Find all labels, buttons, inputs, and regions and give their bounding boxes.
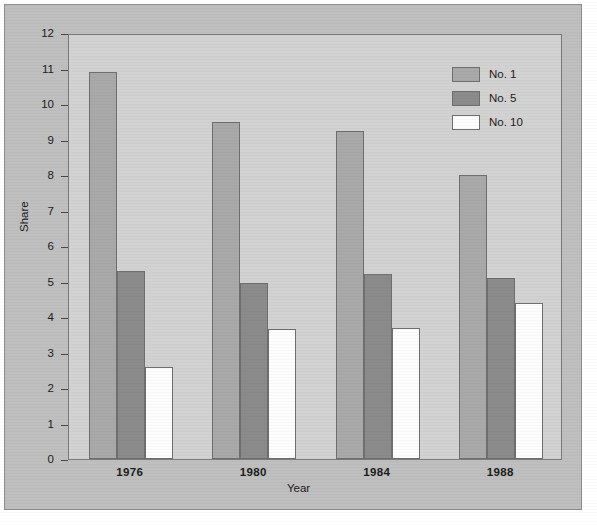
bar-1976-no10 (145, 367, 173, 459)
x-axis-tick-label: 1984 (337, 466, 417, 478)
y-axis-tick-label: 4 (14, 312, 54, 324)
y-axis-tick (61, 318, 68, 319)
y-axis-tick (61, 70, 68, 71)
y-axis-tick (61, 176, 68, 177)
legend-swatch (452, 115, 480, 130)
y-axis-tick-label: 10 (14, 99, 54, 111)
y-axis-tick (61, 141, 68, 142)
y-axis-tick (61, 460, 68, 461)
bar-1980-no10 (268, 329, 296, 459)
legend-label: No. 5 (489, 92, 517, 104)
bar-1984-no5 (364, 274, 392, 459)
x-axis-title: Year (0, 482, 597, 494)
y-axis-tick-label: 6 (14, 241, 54, 253)
bar-1984-no1 (336, 131, 364, 459)
y-axis-tick (61, 212, 68, 213)
legend-swatch (452, 91, 480, 106)
y-axis-tick-label: 0 (14, 454, 54, 466)
y-axis-tick (61, 283, 68, 284)
y-axis-tick-label: 8 (14, 170, 54, 182)
x-axis-tick-label: 1980 (213, 466, 293, 478)
bar-chart-figure: 0123456789101112 Share 1976198019841988 … (0, 0, 597, 525)
legend: No. 1No. 5No. 10 (452, 62, 552, 134)
y-axis-tick-label: 9 (14, 135, 54, 147)
legend-swatch (452, 67, 480, 82)
bar-1976-no1 (89, 72, 117, 459)
y-axis-tick-label: 2 (14, 383, 54, 395)
y-axis-tick-label: 5 (14, 277, 54, 289)
y-axis-tick-label: 3 (14, 348, 54, 360)
y-axis-title: Share (18, 201, 30, 232)
x-axis-tick-label: 1988 (460, 466, 540, 478)
legend-item: No. 1 (452, 62, 552, 86)
bar-1988-no1 (459, 175, 487, 459)
y-axis-tick (61, 354, 68, 355)
bar-1988-no5 (487, 278, 515, 459)
y-axis-tick (61, 247, 68, 248)
legend-label: No. 1 (489, 68, 517, 80)
y-axis-tick (61, 105, 68, 106)
y-axis-tick-label: 12 (14, 28, 54, 40)
y-axis-tick (61, 425, 68, 426)
x-axis-tick-label: 1976 (90, 466, 170, 478)
y-axis-tick-label: 1 (14, 419, 54, 431)
legend-item: No. 10 (452, 110, 552, 134)
legend-label: No. 10 (489, 116, 523, 128)
bar-1984-no10 (392, 328, 420, 459)
bar-1988-no10 (515, 303, 543, 459)
bar-1980-no5 (240, 283, 268, 459)
legend-item: No. 5 (452, 86, 552, 110)
y-axis-tick (61, 389, 68, 390)
bar-1976-no5 (117, 271, 145, 459)
y-axis-tick-label: 11 (14, 64, 54, 76)
bar-1980-no1 (212, 122, 240, 459)
y-axis-tick (61, 34, 68, 35)
